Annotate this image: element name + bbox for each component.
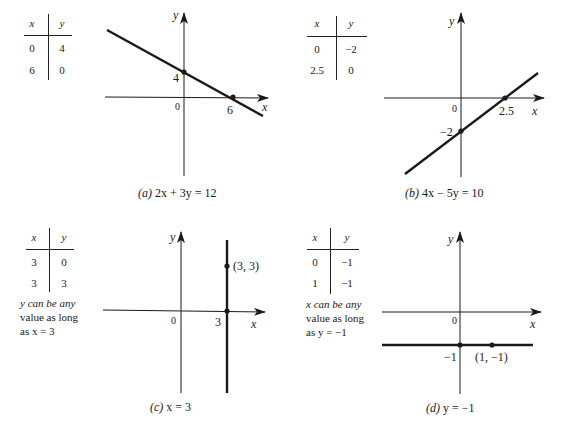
x-intercept-label-a: 6 — [227, 103, 233, 117]
x-intercept-label-c: 3 — [215, 315, 221, 329]
graph-d: y x 0 −1 (1, −1) — [382, 232, 541, 394]
graphs-canvas: y x 0 4 6 y x 0 −2 2.5 y x 0 3 (3, 3) — [0, 0, 561, 434]
x-axis-a — [105, 97, 268, 98]
x-label-c: x — [250, 317, 257, 331]
origin-label-c: 0 — [171, 315, 176, 326]
y-label-b: y — [448, 14, 455, 28]
y-label-d: y — [447, 232, 454, 246]
y-intercept-label-a: 4 — [173, 71, 179, 85]
origin-label-d: 0 — [452, 315, 457, 326]
graph-c: y x 0 3 (3, 3) — [103, 230, 265, 393]
x-axis-c — [103, 310, 265, 312]
point-d-1 — [457, 342, 462, 347]
origin-label-b: 0 — [452, 103, 457, 114]
y-label-c: y — [169, 230, 176, 244]
origin-label-a: 0 — [175, 101, 180, 112]
point-a-1 — [181, 69, 186, 74]
x-label-d: x — [529, 317, 536, 331]
y-label-a: y — [172, 8, 179, 22]
graph-b: y x 0 −2 2.5 — [384, 13, 544, 177]
point-a-2 — [230, 94, 235, 99]
point-d-2 — [489, 342, 494, 347]
point-b-1 — [458, 128, 463, 133]
x-intercept-label-b: 2.5 — [499, 104, 514, 118]
x-label-b: x — [531, 104, 538, 118]
x-label-a: x — [261, 100, 268, 114]
graph-a: y x 0 4 6 — [105, 8, 268, 176]
point-c-1 — [224, 263, 229, 268]
y-intercept-label-d: −1 — [444, 350, 457, 364]
point-c-2 — [224, 308, 229, 313]
point-b-2 — [502, 95, 507, 100]
point-label-c: (3, 3) — [233, 259, 259, 273]
point-label-d: (1, −1) — [475, 350, 508, 364]
y-intercept-label-b: −2 — [440, 125, 453, 139]
plot-line-b — [405, 73, 538, 174]
